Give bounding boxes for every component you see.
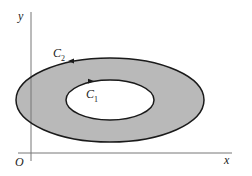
c2-subscript: 2 [61, 54, 65, 63]
region-diagram: y x O C 2 C 1 [0, 0, 252, 176]
curve-c1 [66, 80, 154, 120]
origin-label: O [15, 155, 24, 169]
c1-subscript: 1 [94, 95, 98, 104]
y-axis-label: y [17, 9, 24, 23]
x-axis-label: x [223, 153, 230, 167]
